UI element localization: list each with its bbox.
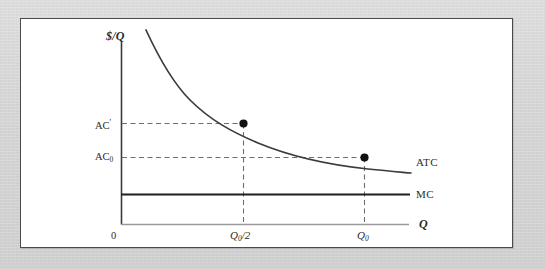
- y-tick-ac-prime-mark: ': [110, 117, 112, 127]
- y-tick-ac-zero-sub: 0: [110, 155, 114, 164]
- figure-screenshot: $/Q AC' AC0 0 Q0/2 Q0 ATC MC Q: [0, 0, 545, 269]
- figure-panel: [20, 18, 513, 248]
- y-axis-title: $/Q: [106, 30, 125, 42]
- x-tick-q-zero-sub: 0: [365, 234, 369, 243]
- y-tick-label-ac-prime: AC': [95, 118, 111, 132]
- x-tick-label-q-half: Q0/2: [230, 230, 250, 243]
- origin-label: 0: [111, 231, 116, 242]
- x-tick-q-half-base: Q: [230, 229, 238, 241]
- y-tick-ac-zero-base: AC: [95, 151, 110, 162]
- x-tick-label-q-zero: Q0: [357, 230, 369, 243]
- x-tick-q-half-tail: /2: [242, 229, 251, 241]
- y-tick-label-ac-zero: AC0: [95, 152, 113, 164]
- curve-label-mc: MC: [416, 189, 434, 200]
- curve-label-atc: ATC: [416, 157, 438, 168]
- x-axis-title: Q: [419, 218, 428, 230]
- y-tick-ac-prime-base: AC: [95, 120, 110, 131]
- x-tick-q-zero-base: Q: [357, 229, 365, 241]
